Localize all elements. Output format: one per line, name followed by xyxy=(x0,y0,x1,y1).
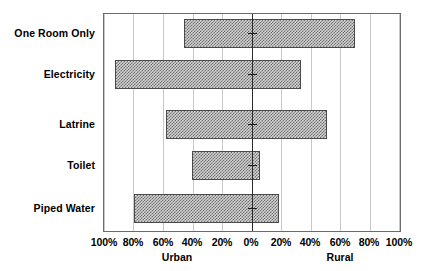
category-label-latrine: Latrine xyxy=(59,118,95,130)
xtick-label-urban-80: 80% xyxy=(123,236,144,248)
bar-electricity xyxy=(115,60,301,89)
xtick-label-rural-20: 20% xyxy=(271,236,292,248)
axis-caption-rural: Rural xyxy=(327,251,354,263)
xtick-label-urban-40: 40% xyxy=(182,236,203,248)
category-label-one-room-only: One Room Only xyxy=(14,27,95,39)
zero-tick-toilet xyxy=(248,165,257,166)
zero-tick-latrine xyxy=(248,124,257,125)
xtick-label-rural-100: 100% xyxy=(386,236,412,248)
gridline-rural-100 xyxy=(399,14,400,231)
plot-area xyxy=(103,13,401,232)
xtick-label-urban-100: 100% xyxy=(91,236,117,248)
gridline-urban-100 xyxy=(104,14,105,231)
xtick-label-rural-60: 60% xyxy=(330,236,351,248)
xtick-label-urban-20: 20% xyxy=(212,236,233,248)
xtick-label-zero: 0% xyxy=(244,236,259,248)
zero-axis-line xyxy=(252,14,253,231)
category-label-electricity: Electricity xyxy=(44,68,95,80)
xtick-label-rural-80: 80% xyxy=(359,236,380,248)
bar-one-room-only xyxy=(184,19,355,48)
diverging-bar-chart: One Room Only Electricity Latrine Toilet… xyxy=(0,0,423,271)
category-label-piped-water: Piped Water xyxy=(34,202,95,214)
zero-tick-electricity xyxy=(248,74,257,75)
bar-piped-water xyxy=(134,194,279,223)
category-label-toilet: Toilet xyxy=(67,159,95,171)
gridline-rural-80 xyxy=(370,14,371,231)
axis-caption-urban: Urban xyxy=(162,251,192,263)
xtick-label-rural-40: 40% xyxy=(300,236,321,248)
xtick-label-urban-60: 60% xyxy=(153,236,174,248)
zero-tick-one-room-only xyxy=(248,33,257,34)
zero-tick-piped-water xyxy=(248,208,257,209)
bar-latrine xyxy=(166,110,327,139)
